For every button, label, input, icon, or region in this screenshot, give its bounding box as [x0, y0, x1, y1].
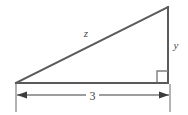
triangle-shape — [16, 7, 168, 83]
geometry-figure: z y 3 — [0, 0, 188, 115]
right-angle-square-path — [157, 71, 168, 82]
dimension-arrow-right-icon — [159, 92, 169, 99]
triangle-diagram-svg: z y 3 — [0, 0, 188, 115]
right-angle-square-icon — [157, 71, 168, 82]
vertical-leg-label: y — [173, 39, 179, 51]
horizontal-leg-label: 3 — [90, 89, 96, 103]
hypotenuse-line — [16, 7, 168, 83]
dimension-arrow-left-icon — [17, 92, 27, 99]
hypotenuse-label: z — [83, 27, 89, 39]
